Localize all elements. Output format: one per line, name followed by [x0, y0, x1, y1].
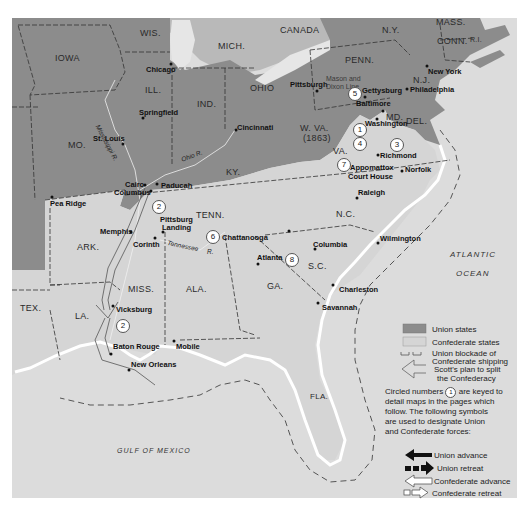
legend-union-advance: Union advance [434, 451, 487, 460]
legend-confederate-retreat: Confederate retreat [432, 489, 501, 498]
legend-swatch-confederate [403, 337, 426, 346]
legend-scott-1: Scott's plan to split [434, 365, 500, 374]
city-label-columbus: Columbus [114, 189, 151, 197]
legend-confederate-states: Confederate states [432, 338, 500, 347]
city-label-vicksburg: Vicksburg [116, 306, 152, 314]
circled-number-7: 7 [337, 158, 351, 172]
legend-note-1-text: Circled numbers [385, 387, 443, 396]
legend-swatch-union [403, 324, 426, 333]
city-label-new-orleans: New Orleans [131, 361, 176, 369]
state-label-iowa: IOWA [55, 54, 80, 63]
state-label-mo: MO. [68, 141, 86, 150]
city-label-new-york: New York [428, 68, 462, 76]
state-label-ky: KY. [226, 168, 240, 177]
water-label-gulf: GULF OF MEXICO [117, 447, 191, 454]
legend-note-2: detail maps in the pages which [385, 397, 494, 406]
legend-note-4: are used to designate Union [385, 417, 485, 426]
state-label-ind: IND. [197, 100, 216, 109]
state-label-nj: N.J. [413, 76, 430, 85]
mason-dixon-label-1: Mason and [326, 75, 361, 82]
city-label-philadelphia: Philadelphia [410, 86, 454, 94]
state-label-va: VA. [333, 147, 348, 156]
circled-number-8: 8 [285, 253, 299, 267]
state-label-wis: WIS. [140, 29, 161, 38]
city-label-pittsburgh: Pittsburgh [290, 81, 328, 89]
circled-number-4: 4 [353, 137, 367, 151]
legend-note-1b-text: are keyed to [459, 387, 503, 396]
city-label-norfolk: Norfolk [405, 166, 431, 174]
city-label-paducah: Paducah [161, 182, 192, 190]
city-label-columbia: Columbia [313, 241, 347, 249]
state-label-mich: MICH. [218, 42, 245, 51]
city-label-wilmington: Wilmington [380, 235, 421, 243]
state-label-wva: W. VA. [300, 124, 329, 133]
legend-note-5: and Confederate forces: [385, 427, 471, 436]
state-label-ark: ARK. [77, 243, 99, 252]
water-label-atlantic: ATLANTIC [450, 251, 496, 259]
city-label-raleigh: Raleigh [358, 189, 385, 197]
legend-note-3: follow. The following symbols [385, 407, 488, 416]
legend-union-states: Union states [432, 325, 476, 334]
city-label-washington: Washington [365, 120, 408, 128]
state-label-ohio: OHIO [250, 84, 274, 93]
circled-number-5: 5 [348, 87, 362, 101]
state-label-conn: CONN. [437, 37, 468, 46]
state-label-ga: GA. [267, 282, 283, 291]
city-label-mobile: Mobile [176, 343, 200, 351]
city-label-springfield: Springfield [139, 109, 178, 117]
city-label-cincinnati: Cincinnati [237, 124, 273, 132]
region-label-canada: CANADA [280, 26, 319, 35]
city-label-richmond: Richmond [380, 152, 417, 160]
state-label-ny: N.Y. [382, 26, 400, 35]
state-label-penn: PENN. [345, 56, 374, 65]
legend-union-retreat: Union retreat [437, 464, 483, 473]
water-label-ocean: OCEAN [456, 270, 489, 278]
state-label-tenn: TENN. [196, 211, 225, 220]
state-label-del: DEL. [406, 117, 427, 126]
state-label-fla: FLA. [310, 393, 328, 401]
state-label-miss: MISS. [128, 285, 154, 294]
state-label-nc: N.C. [336, 210, 355, 219]
legend-confederate-advance: Confederate advance [434, 477, 511, 486]
state-label-ill: ILL. [145, 86, 161, 95]
city-label-pea-ridge: Pea Ridge [50, 200, 86, 208]
state-label-ala: ALA. [186, 285, 207, 294]
circled-number-6: 6 [206, 230, 220, 244]
state-label-tex: TEX. [20, 304, 41, 313]
city-label-baton-rouge: Baton Rouge [113, 343, 160, 351]
circled-number-1: 1 [353, 123, 367, 137]
city-label-appomattox: Appomattox [350, 164, 394, 172]
circled-number-3: 3 [390, 138, 404, 152]
circled-number-2-south: 2 [116, 319, 130, 333]
city-label-landing: Landing [162, 224, 191, 232]
legend-scott-2: the Confederacy [437, 374, 496, 383]
city-label-chattanooga: Chattanooga [222, 234, 268, 242]
city-label-gettysburg: Gettysburg [362, 87, 402, 95]
city-label-memphis: Memphis [100, 228, 133, 236]
city-label-atlanta: Atlanta [257, 254, 282, 262]
state-label-sc: S.C. [308, 262, 327, 271]
river-label-tennessee-r: R. [207, 249, 214, 256]
city-label-chicago: Chicago [146, 66, 176, 74]
city-label-corinth: Corinth [133, 241, 160, 249]
circled-number-2-north: 2 [152, 200, 166, 214]
state-label-mass: MASS. [436, 18, 466, 27]
state-label-ri: R.I. [470, 36, 482, 43]
city-label-charleston: Charleston [339, 286, 378, 294]
city-label-baltimore: Baltimore [356, 100, 391, 108]
state-label-wva-year: (1863) [303, 134, 331, 143]
state-label-la: LA. [75, 312, 89, 321]
city-label-court-house: Court House [348, 173, 393, 181]
city-label-savannah: Savannah [322, 304, 357, 312]
